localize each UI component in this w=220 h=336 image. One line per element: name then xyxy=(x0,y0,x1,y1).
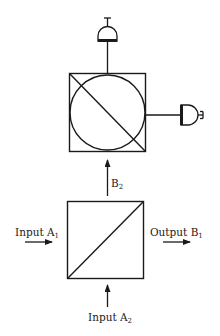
diagram-graphics xyxy=(0,0,220,336)
diagram-canvas: B2 Input A1 Output B1 Input A2 xyxy=(0,0,220,336)
label-input-a2-text: Input A xyxy=(88,311,128,323)
label-b2-sub: 2 xyxy=(119,183,123,191)
label-b2-text: B xyxy=(111,177,119,189)
circle-splitter-icon xyxy=(70,74,146,152)
label-output-b1-text: Output B xyxy=(150,226,198,238)
label-input-a1: Input A1 xyxy=(15,227,59,240)
label-input-a2-sub: 2 xyxy=(128,317,132,325)
detector-right-icon xyxy=(146,105,204,125)
label-input-a1-sub: 1 xyxy=(55,232,59,240)
label-output-b1-sub: 1 xyxy=(198,232,202,240)
detector-top-icon xyxy=(98,18,117,73)
label-input-a2: Input A2 xyxy=(88,312,132,325)
label-output-b1: Output B1 xyxy=(150,227,203,240)
label-b2: B2 xyxy=(111,178,123,191)
beam-splitter-icon xyxy=(68,202,144,279)
label-input-a1-text: Input A xyxy=(15,226,55,238)
